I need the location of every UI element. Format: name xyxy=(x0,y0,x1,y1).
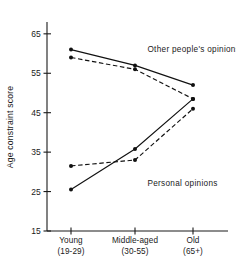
y-axis-title: Age constraint score xyxy=(5,86,15,168)
y-axis-ticks: 655545352515 xyxy=(31,29,51,236)
data-point-marker xyxy=(191,83,195,87)
series-line xyxy=(71,50,193,85)
data-point-marker xyxy=(69,188,73,192)
data-point-marker xyxy=(133,67,137,71)
x-category-label-line2: (65+) xyxy=(183,247,203,256)
x-category-label-line1: Young xyxy=(59,236,83,245)
data-point-marker xyxy=(191,97,195,101)
y-tick-label: 65 xyxy=(31,29,41,39)
y-tick-label: 25 xyxy=(31,187,41,197)
y-tick-label: 55 xyxy=(31,68,41,78)
data-point-marker xyxy=(191,107,195,111)
x-axis-category-labels: Young(19-29)Middle-aged(30-55)Old(65+) xyxy=(57,236,203,256)
data-point-marker xyxy=(133,158,137,162)
chart-container: 655545352515 Age constraint score Young(… xyxy=(0,0,236,261)
series-line xyxy=(71,99,193,190)
series-line xyxy=(71,57,193,98)
x-category-label-line1: Old xyxy=(186,236,199,245)
annotation-layer: Other people's opinionsPersonal opinions xyxy=(147,45,236,188)
data-point-marker xyxy=(133,147,137,151)
series-layer xyxy=(69,48,195,192)
data-point-marker xyxy=(69,48,73,52)
x-category-label-line1: Middle-aged xyxy=(112,236,159,245)
y-tick-label: 15 xyxy=(31,226,41,236)
chart-annotation: Other people's opinions xyxy=(147,45,236,54)
x-category-label-line2: (19-29) xyxy=(57,247,84,256)
chart-annotation: Personal opinions xyxy=(147,179,217,188)
data-point-marker xyxy=(133,63,137,67)
data-point-marker xyxy=(69,164,73,168)
y-tick-label: 35 xyxy=(31,147,41,157)
data-point-marker xyxy=(69,55,73,59)
series-line xyxy=(71,109,193,166)
x-category-label-line2: (30-55) xyxy=(121,247,148,256)
line-chart: 655545352515 Age constraint score Young(… xyxy=(0,0,236,261)
y-tick-label: 45 xyxy=(31,108,41,118)
